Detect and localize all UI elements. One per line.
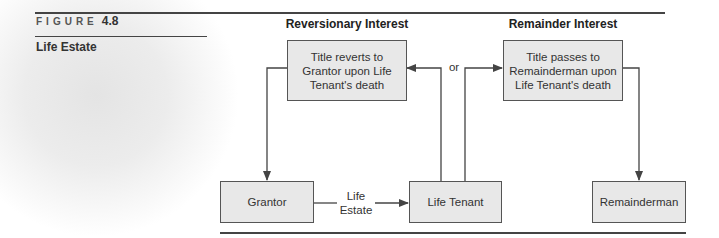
remainderman-box: Remainderman — [592, 181, 686, 223]
remainder-box: Title passes to Remainderman upon Life T… — [503, 40, 623, 101]
grantor-box: Grantor — [220, 181, 314, 223]
life-estate-line1: Life — [334, 189, 378, 203]
grantor-text: Grantor — [248, 195, 287, 209]
remainder-text: Title passes to Remainderman upon Life T… — [505, 50, 621, 92]
life-estate-line2: Estate — [334, 203, 378, 217]
remainderman-text: Remainderman — [600, 195, 679, 209]
life-estate-label: Life Estate — [334, 189, 378, 217]
life-tenant-box: Life Tenant — [409, 181, 502, 223]
life-tenant-text: Life Tenant — [427, 195, 483, 209]
or-label: or — [446, 60, 462, 74]
reversion-box: Title reverts to Grantor upon Life Tenan… — [287, 40, 407, 101]
reversion-text: Title reverts to Grantor upon Life Tenan… — [291, 50, 403, 92]
